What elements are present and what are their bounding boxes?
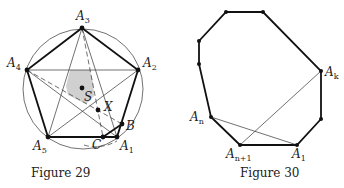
label-a3: A3: [75, 9, 90, 25]
label-b: B: [125, 119, 135, 133]
polygon: [199, 12, 321, 145]
label-a2: A2: [142, 56, 157, 72]
label-an1: An+1: [225, 147, 252, 163]
label-s: S: [84, 90, 92, 104]
label-a1: A1: [119, 139, 134, 155]
figure-29: A3 A2 A4 A5 A1 S X B C Figure 29: [6, 9, 157, 180]
figures-canvas: A3 A2 A4 A5 A1 S X B C Figure 29 Ak An A…: [0, 0, 344, 188]
label-an: An: [189, 110, 204, 126]
caption-figure-29: Figure 29: [31, 166, 91, 180]
caption-figure-30: Figure 30: [240, 166, 300, 180]
label-c: C: [92, 138, 101, 152]
label-a1: A1: [291, 147, 306, 163]
label-a4: A4: [6, 56, 21, 72]
label-x: X: [103, 100, 113, 114]
label-a5: A5: [32, 139, 47, 155]
label-ak: Ak: [324, 65, 339, 81]
figure-30: Ak An An+1 A1 Figure 30: [189, 10, 339, 180]
